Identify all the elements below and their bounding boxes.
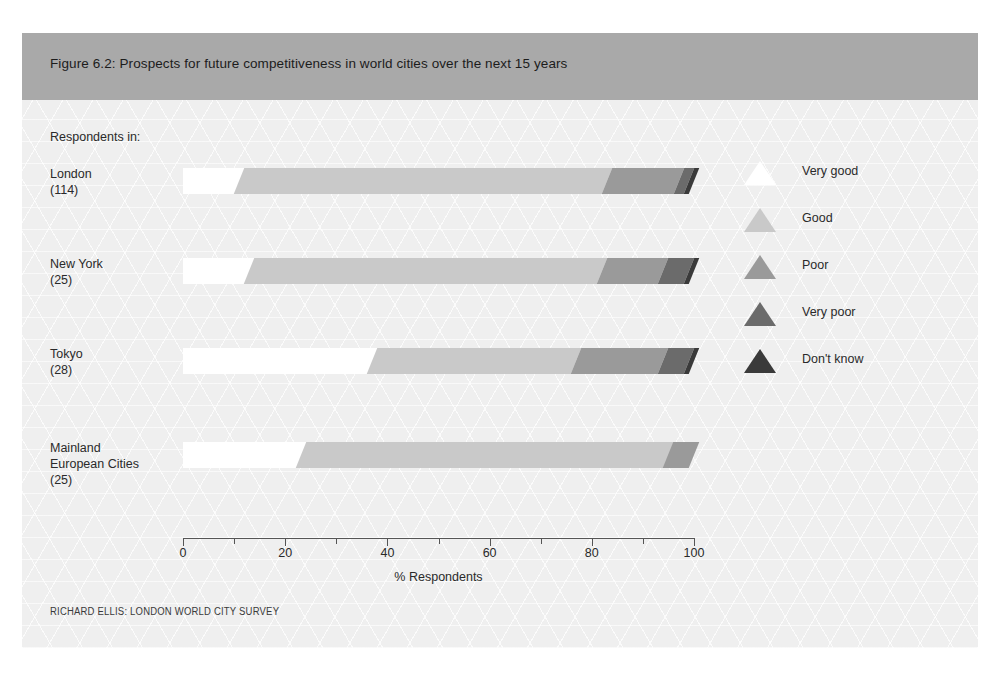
bar-segment <box>234 168 612 194</box>
legend-item[interactable]: Poor <box>744 255 954 302</box>
legend-triangle-icon <box>744 208 776 232</box>
bar-segment <box>244 258 607 284</box>
x-axis-tick <box>694 538 695 546</box>
x-axis-tick <box>336 538 337 544</box>
x-axis-tick <box>490 538 491 546</box>
x-axis-tick <box>439 538 440 544</box>
x-axis-title: % Respondents <box>183 570 694 584</box>
legend-item[interactable]: Don't know <box>744 349 954 396</box>
x-axis-tick-label: 80 <box>585 546 599 560</box>
bar-segment <box>597 258 669 284</box>
bar-segment <box>602 168 684 194</box>
chart-legend: Very goodGoodPoorVery poorDon't know <box>744 161 954 396</box>
category-count: (28) <box>50 362 200 378</box>
x-axis-tick-label: 40 <box>380 546 394 560</box>
category-label: New York(25) <box>50 256 200 288</box>
category-count: (25) <box>50 272 200 288</box>
figure-panel: Figure 6.2: Prospects for future competi… <box>22 33 978 648</box>
legend-triangle-icon <box>744 255 776 279</box>
category-label: London(114) <box>50 166 200 198</box>
x-axis-tick-label: 0 <box>180 546 187 560</box>
legend-label: Very poor <box>802 305 856 319</box>
legend-label: Poor <box>802 258 828 272</box>
bar-row <box>183 348 694 374</box>
category-count: European Cities <box>50 456 200 472</box>
x-axis-tick-label: 60 <box>483 546 497 560</box>
legend-label: Good <box>802 211 833 225</box>
category-name: Mainland <box>50 440 200 456</box>
x-axis-tick <box>643 538 644 544</box>
category-count: (25) <box>50 472 200 488</box>
legend-triangle-icon <box>744 161 776 185</box>
bar-row <box>183 258 694 284</box>
bar-segment <box>183 348 383 374</box>
x-axis-tick <box>234 538 235 544</box>
legend-triangle-icon <box>744 302 776 326</box>
category-label: MainlandEuropean Cities(25) <box>50 440 200 488</box>
legend-item[interactable]: Very poor <box>744 302 954 349</box>
x-axis-tick <box>285 538 286 546</box>
x-axis-tick <box>541 538 542 544</box>
x-axis-tick-label: 20 <box>278 546 292 560</box>
category-name: Tokyo <box>50 346 200 362</box>
category-count: (114) <box>50 182 200 198</box>
legend-triangle-icon <box>744 349 776 373</box>
legend-item[interactable]: Good <box>744 208 954 255</box>
bar-row <box>183 168 694 194</box>
x-axis-tick <box>183 538 184 546</box>
x-axis-tick-label: 100 <box>684 546 705 560</box>
legend-label: Very good <box>802 164 858 178</box>
bar-segment <box>571 348 668 374</box>
bar-segment <box>295 442 673 468</box>
category-name: London <box>50 166 200 182</box>
legend-label: Don't know <box>802 352 863 366</box>
legend-item[interactable]: Very good <box>744 161 954 208</box>
source-note: RICHARD ELLIS: LONDON WORLD CITY SURVEY <box>50 605 279 617</box>
category-label: Tokyo(28) <box>50 346 200 378</box>
x-axis-tick <box>387 538 388 546</box>
x-axis-tick <box>592 538 593 546</box>
bar-row <box>183 442 694 468</box>
bar-segment <box>183 442 311 468</box>
bar-segment <box>367 348 582 374</box>
category-name: New York <box>50 256 200 272</box>
